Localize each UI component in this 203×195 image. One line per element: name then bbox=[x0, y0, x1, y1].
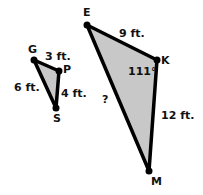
vertex-m-label: M bbox=[151, 176, 162, 187]
vertex-s-dot bbox=[53, 105, 60, 112]
vertex-k-label: K bbox=[161, 55, 170, 66]
side-ek-label: 9 ft. bbox=[119, 28, 145, 39]
side-ps-label: 4 ft. bbox=[61, 88, 87, 99]
similar-triangles-diagram: G P S 3 ft. 6 ft. 4 ft. E K M 9 ft. 12 f… bbox=[0, 0, 203, 195]
triangle-ekm bbox=[87, 25, 157, 171]
side-gp-label: 3 ft. bbox=[45, 51, 71, 62]
side-em-unknown-label: ? bbox=[102, 94, 108, 105]
vertex-g-label: G bbox=[28, 44, 37, 55]
angle-k-label: 111° bbox=[128, 66, 156, 77]
vertex-e-dot bbox=[84, 22, 91, 29]
vertex-k-dot bbox=[154, 57, 161, 64]
vertex-e-label: E bbox=[83, 7, 91, 18]
vertex-p-dot bbox=[56, 68, 63, 75]
vertex-p-label: P bbox=[63, 64, 71, 75]
vertex-s-label: S bbox=[53, 113, 61, 124]
vertex-m-dot bbox=[146, 168, 153, 175]
side-km-label: 12 ft. bbox=[161, 110, 194, 121]
side-gs-label: 6 ft. bbox=[14, 82, 40, 93]
vertex-g-dot bbox=[31, 57, 38, 64]
